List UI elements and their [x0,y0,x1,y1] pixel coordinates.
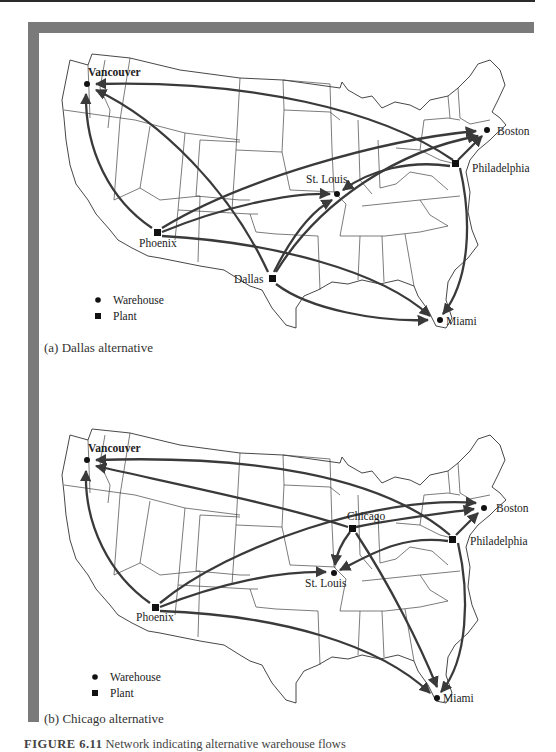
label-vancouver: Vancouver [88,442,141,454]
map-dallas-alternative: Vancouver Boston Philadelphia St. Louis … [0,0,556,375]
label-philadelphia: Philadelphia [472,162,530,175]
legend-plant-label: Plant [110,687,134,699]
label-st-louis: St. Louis [306,173,348,185]
legend-warehouse-icon [92,674,98,680]
figure-caption: FIGURE 6.11 Network indicating alternati… [24,737,346,752]
label-st-louis: St. Louis [305,577,347,589]
label-phoenix: Phoenix [136,611,174,623]
flow-arrows [86,459,478,693]
legend: Warehouse Plant [92,671,161,699]
label-philadelphia: Philadelphia [470,535,528,548]
label-miami: Miami [443,692,474,704]
plant-marker-chicago [349,525,356,532]
legend: Warehouse Plant [95,294,164,322]
plant-marker-phoenix [152,604,159,611]
warehouse-marker-boston [484,127,490,133]
legend-plant-icon [92,690,98,696]
label-dallas: Dallas [234,273,264,285]
warehouse-marker-vancouver [84,81,90,87]
plant-marker-phoenix [154,229,161,236]
warehouse-marker-vancouver [84,457,90,463]
label-chicago: Chicago [347,510,386,523]
nodes: Vancouver Boston Philadelphia St. Louis … [84,66,530,327]
map-chicago-alternative: Vancouver Boston Philadelphia Chicago St… [0,375,556,750]
figure-caption-text: Network indicating alternative warehouse… [106,737,346,751]
label-miami: Miami [446,315,477,327]
plant-marker-philadelphia [449,536,456,543]
legend-plant-icon [95,313,101,319]
warehouse-marker-boston [481,505,487,511]
warehouse-marker-miami [437,317,443,323]
panel-a-caption: (a) Dallas alternative [44,340,153,356]
us-outline [62,54,506,328]
legend-plant-label: Plant [113,310,137,322]
warehouse-marker-miami [434,695,440,701]
label-vancouver: Vancouver [88,66,141,78]
state-borders [64,58,490,290]
figure-number: FIGURE 6.11 [24,737,102,751]
label-boston: Boston [496,502,529,514]
legend-warehouse-label: Warehouse [110,671,161,683]
label-phoenix: Phoenix [139,237,177,249]
legend-warehouse-icon [95,297,101,303]
plant-marker-philadelphia [452,160,459,167]
flow-arrows [86,84,482,321]
label-boston: Boston [497,125,530,137]
plant-marker-dallas [269,275,276,282]
legend-warehouse-label: Warehouse [113,294,164,306]
warehouse-marker-st-louis [331,570,337,576]
warehouse-marker-st-louis [334,191,340,197]
panel-b-caption: (b) Chicago alternative [44,711,164,727]
